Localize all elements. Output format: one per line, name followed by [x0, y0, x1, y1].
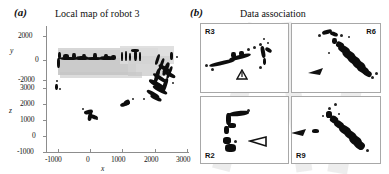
quadrant-label-r2: R2 — [205, 151, 215, 160]
z-tick — [43, 152, 47, 153]
scan-point — [228, 123, 236, 128]
x-tick — [155, 149, 156, 153]
quadrant-r6[interactable]: R6 — [291, 23, 381, 93]
scan-point — [366, 149, 369, 152]
scan-point — [93, 53, 97, 59]
x-tick-label: 0 — [86, 155, 90, 164]
scan-point — [318, 34, 321, 37]
scan-point — [330, 31, 339, 37]
panel-a-title: Local map of robot 3 — [55, 8, 139, 19]
scan-point — [224, 126, 229, 134]
scan-point — [253, 46, 256, 49]
panel-b-tag: (b) — [190, 6, 203, 18]
scan-point — [225, 144, 236, 152]
scan-point — [334, 103, 337, 106]
scan-point — [82, 108, 84, 110]
panel-b-data-association: (b) Data association R3 — [190, 0, 389, 174]
scan-point — [58, 52, 61, 59]
scan-point — [348, 36, 350, 38]
figure-root: (a) Local map of robot 3 200 — [0, 0, 389, 174]
scan-point — [263, 38, 265, 40]
scan-point — [150, 94, 163, 103]
y-tick — [43, 80, 47, 81]
z-axis-label: z — [9, 106, 12, 115]
panel-a-tag: (a) — [14, 6, 27, 18]
quadrant-r2[interactable]: R2 — [200, 96, 289, 164]
robot-pose-marker-r6 — [306, 66, 324, 77]
y-axis-line — [46, 26, 47, 152]
y-tick — [43, 60, 47, 61]
scan-point — [259, 66, 262, 69]
scan-point — [353, 139, 367, 152]
x-tick-label: -1000 — [45, 155, 62, 164]
scan-point — [264, 46, 272, 53]
scan-point — [96, 118, 98, 120]
scan-point — [132, 98, 134, 100]
robot-pose-marker-r2 — [248, 135, 268, 148]
scan-point — [57, 58, 60, 68]
scan-point — [263, 58, 266, 65]
x-axis-label: x — [101, 164, 104, 173]
scan-point — [121, 52, 123, 61]
scan-point — [104, 54, 108, 59]
z-tick-label: -1000 — [17, 147, 34, 156]
scan-point — [170, 52, 173, 60]
scan-point — [328, 52, 330, 54]
x-tick-label: 2000 — [144, 155, 158, 164]
scan-point — [211, 68, 214, 71]
scan-point — [125, 51, 127, 61]
scan-point — [72, 53, 76, 59]
z-tick — [43, 88, 47, 89]
scan-point — [340, 34, 343, 37]
scan-point — [143, 98, 145, 100]
y-tick — [43, 36, 47, 37]
x-tick-label: 1000 — [111, 155, 125, 164]
quadrant-label-r9: R9 — [296, 151, 306, 160]
scan-point — [312, 129, 319, 133]
scan-point — [139, 52, 141, 61]
scan-point — [63, 54, 69, 59]
z-tick-label: 1000 — [20, 115, 34, 124]
scan-point — [371, 76, 374, 79]
x-tick — [122, 149, 123, 153]
y-axis-label: y — [10, 46, 13, 55]
x-tick — [58, 149, 59, 153]
scan-point — [176, 56, 178, 58]
scan-point — [338, 113, 340, 115]
scan-point — [267, 42, 269, 44]
z-tick-label: 3000 — [20, 83, 34, 92]
scan-point — [172, 82, 174, 84]
scan-point — [239, 51, 244, 56]
x-axis-line — [44, 152, 189, 153]
z-tick-label: 0 — [32, 131, 36, 140]
robot-pose-marker-r3 — [236, 69, 248, 81]
robot-pose-marker-r9 — [291, 127, 308, 138]
quadrant-r9[interactable]: R9 — [291, 96, 381, 164]
y-tick-label: 2000 — [18, 31, 32, 40]
panel-b-title: Data association — [240, 8, 306, 19]
z-tick-label: 2000 — [20, 99, 34, 108]
scan-point — [234, 140, 237, 143]
quadrant-label-r3: R3 — [205, 27, 215, 36]
scan-point — [231, 52, 236, 58]
quadrant-r3[interactable]: R3 — [200, 23, 289, 93]
scan-point — [322, 115, 324, 117]
scan-point — [247, 109, 250, 112]
z-tick — [43, 120, 47, 121]
scan-point — [82, 54, 86, 60]
scan-point — [223, 137, 231, 144]
scan-point — [56, 80, 58, 82]
quadrant-label-r6: R6 — [366, 27, 376, 36]
z-tick — [43, 104, 47, 105]
y-tick-label: 0 — [35, 55, 39, 64]
x-tick-label: 3000 — [176, 155, 190, 164]
scan-point — [375, 72, 378, 75]
scan-point — [131, 49, 139, 52]
scan-point — [129, 53, 131, 61]
panel-a-local-map: (a) Local map of robot 3 200 — [0, 0, 196, 174]
scan-point — [59, 88, 61, 90]
x-tick — [90, 149, 91, 153]
scan-point — [247, 48, 250, 51]
local-map-plot: 2000 0 -2000 y 3000 2000 1000 0 -1000 z … — [0, 22, 196, 174]
occupancy-field — [60, 72, 142, 78]
